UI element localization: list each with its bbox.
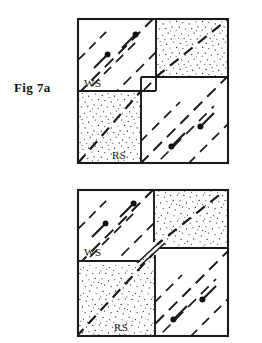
label-ws-7b: WS — [84, 246, 102, 258]
figure-7b-svg: WS RS — [74, 185, 239, 343]
figure-7b-canvas: WS RS — [74, 185, 239, 343]
figure-7b: Fig 7b — [0, 175, 262, 343]
label-ws-7a: WS — [84, 77, 102, 89]
figure-7a-svg: WS RS — [74, 14, 239, 174]
figure-7a-caption: Fig 7a — [14, 80, 78, 96]
label-rs-7a: RS — [112, 149, 126, 161]
figure-7a-canvas: WS RS — [74, 14, 239, 174]
quadrant-bottom-right-fill — [156, 251, 228, 336]
figure-7a: Fig 7a — [0, 0, 262, 175]
label-rs-7b: RS — [114, 321, 128, 333]
